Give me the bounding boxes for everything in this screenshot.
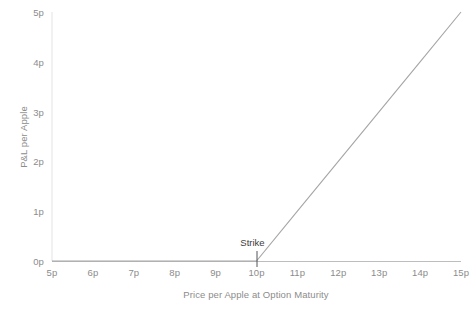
x-tick-label: 12p — [330, 267, 346, 278]
x-axis-title: Price per Apple at Option Maturity — [183, 289, 328, 300]
y-tick-label: 0p — [22, 256, 44, 267]
chart-plot-area — [0, 0, 476, 310]
x-tick-label: 15p — [453, 267, 469, 278]
y-tick-label: 5p — [22, 7, 44, 18]
x-tick-label: 8p — [169, 267, 180, 278]
x-tick-label: 7p — [128, 267, 139, 278]
x-tick-label: 6p — [88, 267, 99, 278]
x-tick-label: 9p — [210, 267, 221, 278]
x-tick-label: 10p — [248, 267, 264, 278]
x-tick-label: 11p — [290, 267, 305, 278]
strike-annotation-label: Strike — [240, 237, 264, 248]
y-tick-label: 1p — [22, 206, 44, 217]
y-axis-title: P&L per Apple — [18, 106, 29, 168]
option-payoff-chart: 5p 4p 3p 2p 1p 0p 5p 6p 7p 8p 9p 10p 11p… — [0, 0, 476, 310]
x-tick-label: 13p — [371, 267, 387, 278]
x-tick-label: 5p — [47, 267, 58, 278]
payoff-line — [52, 12, 461, 261]
x-tick-label: 14p — [412, 267, 428, 278]
y-tick-label: 4p — [22, 56, 44, 67]
